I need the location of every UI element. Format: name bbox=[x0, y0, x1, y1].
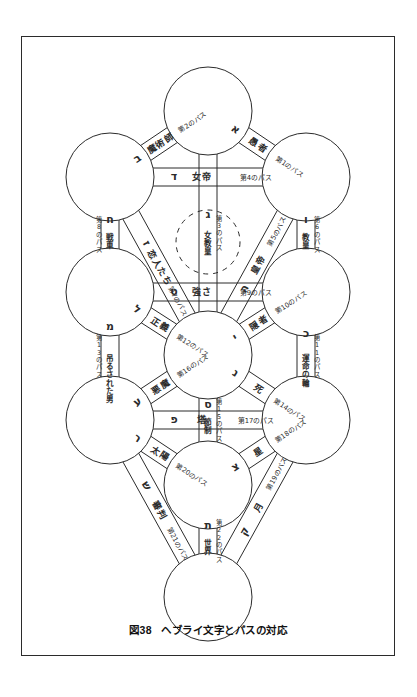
svg-text:魔術師: 魔術師 bbox=[144, 130, 176, 156]
svg-text:כ: כ bbox=[303, 327, 309, 340]
path-label-17: פ塔第17のパス bbox=[170, 413, 274, 426]
svg-text:מ: מ bbox=[106, 320, 114, 333]
svg-text:輪: 輪 bbox=[302, 378, 310, 388]
svg-text:ス: ス bbox=[96, 371, 102, 379]
caption-number: 図38 bbox=[129, 624, 152, 636]
svg-text:ת: ת bbox=[204, 519, 212, 532]
path-label-3: ג女教皇第3のパス bbox=[204, 208, 223, 257]
svg-text:第21のパス: 第21のパス bbox=[165, 526, 191, 562]
svg-text:ス: ス bbox=[314, 246, 320, 254]
svg-text:界: 界 bbox=[204, 546, 212, 556]
sephirah-binah bbox=[262, 133, 350, 221]
svg-text:ד: ד bbox=[171, 170, 177, 183]
svg-text:第5のパス: 第5のパス bbox=[265, 215, 288, 248]
svg-text:塔: 塔 bbox=[197, 414, 207, 425]
svg-text:ט: ט bbox=[170, 285, 177, 298]
svg-text:皇: 皇 bbox=[204, 246, 212, 256]
figure-caption: 図38ヘブライ文字とパスの対応 bbox=[22, 622, 394, 637]
svg-text:第4のパス: 第4のパス bbox=[240, 173, 272, 182]
svg-text:ו: ו bbox=[304, 213, 308, 226]
svg-text:星: 星 bbox=[252, 445, 266, 459]
svg-text:פ: פ bbox=[170, 413, 177, 426]
svg-text:強さ: 強さ bbox=[192, 286, 212, 297]
svg-text:ק: ק bbox=[237, 525, 252, 538]
svg-text:皇帝: 皇帝 bbox=[248, 253, 267, 276]
svg-text:隠者: 隠者 bbox=[247, 312, 270, 332]
sephirah-hod bbox=[262, 376, 350, 464]
svg-text:第17のパス: 第17のパス bbox=[238, 416, 275, 425]
svg-text:死: 死 bbox=[251, 381, 266, 395]
svg-text:ス: ス bbox=[96, 246, 102, 254]
svg-text:男: 男 bbox=[106, 395, 114, 404]
svg-text:愚者: 愚者 bbox=[247, 135, 270, 155]
svg-text:ス: ス bbox=[216, 244, 222, 252]
sephirah-kether bbox=[164, 67, 252, 155]
svg-text:制: 制 bbox=[204, 425, 212, 435]
svg-text:ח: ח bbox=[106, 213, 114, 226]
svg-text:ス: ス bbox=[216, 435, 222, 443]
svg-text:悪魔: 悪魔 bbox=[149, 376, 172, 396]
svg-text:太陽: 太陽 bbox=[149, 443, 173, 464]
svg-text:月: 月 bbox=[251, 500, 265, 514]
svg-text:女帝: 女帝 bbox=[192, 171, 212, 182]
figure-page: א愚者第1のパスב魔術師第2のパスג女教皇第3のパスד女帝第4のパスה皇帝第5の… bbox=[0, 0, 417, 697]
caption-text: ヘブライ文字とパスの対応 bbox=[161, 624, 287, 636]
svg-text:ス: ス bbox=[314, 371, 320, 379]
svg-text:ש: ש bbox=[139, 479, 155, 493]
sephirah-yesod bbox=[164, 441, 252, 529]
sephirah-chokmah bbox=[66, 133, 154, 221]
svg-text:ג: ג bbox=[206, 208, 211, 221]
svg-text:車: 車 bbox=[106, 240, 114, 250]
svg-text:第9のパス: 第9のパス bbox=[240, 288, 272, 297]
svg-text:ス: ス bbox=[216, 556, 222, 564]
svg-text:第19のパス: 第19のパス bbox=[264, 456, 290, 492]
figure-frame: א愚者第1のパスב魔術師第2のパスג女教皇第3のパスד女帝第4のパスה皇帝第5の… bbox=[21, 36, 395, 656]
svg-text:皇: 皇 bbox=[302, 240, 310, 250]
path-label-4: ד女帝第4のパス bbox=[171, 170, 272, 183]
tree-of-life-diagram: א愚者第1のパスב魔術師第2のパスג女教皇第3のパスד女帝第4のパスה皇帝第5の… bbox=[22, 37, 396, 657]
svg-text:ס: ס bbox=[204, 398, 211, 411]
svg-text:正義: 正義 bbox=[149, 314, 172, 334]
svg-text:ז: ז bbox=[140, 238, 154, 248]
